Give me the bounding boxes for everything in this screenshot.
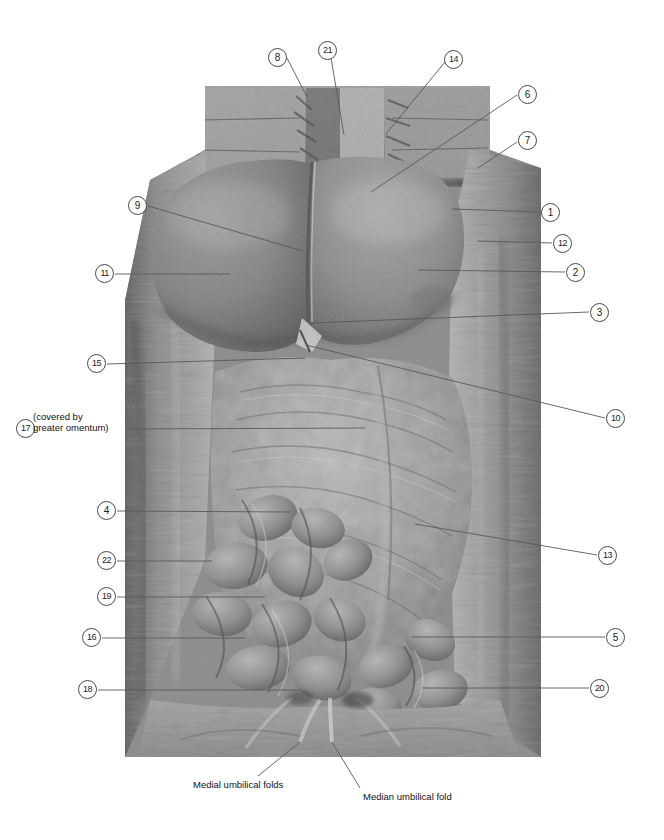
- callout-9[interactable]: 9: [128, 196, 147, 215]
- leader-line-15: [107, 358, 305, 364]
- caption-median-umbilical-fold: Median umbilical fold: [363, 791, 452, 802]
- leader-line-6: [371, 95, 517, 192]
- callout-1[interactable]: 1: [541, 203, 560, 222]
- leader-line-2: [418, 270, 565, 272]
- leader-line-14: [386, 62, 445, 134]
- callout-14[interactable]: 14: [444, 50, 463, 69]
- leader-line-10: [306, 345, 605, 418]
- callout-12[interactable]: 12: [553, 234, 572, 253]
- leader-line-4: [117, 511, 290, 512]
- callout-18[interactable]: 18: [78, 680, 97, 699]
- callout-11[interactable]: 11: [95, 264, 114, 283]
- leader-line-8: [287, 58, 307, 97]
- callout-20[interactable]: 20: [590, 679, 609, 698]
- leader-line-9: [148, 206, 303, 251]
- leader-line-7: [478, 142, 517, 168]
- leader-line-12: [478, 241, 552, 243]
- leader-line-3: [311, 312, 589, 323]
- callout-5[interactable]: 5: [606, 628, 625, 647]
- note-covered-by-greater-omentum: (covered by greater omentum): [33, 411, 109, 433]
- leader-line-13: [415, 524, 597, 555]
- callout-13[interactable]: 13: [598, 546, 617, 565]
- callout-21[interactable]: 21: [318, 41, 337, 60]
- callout-10[interactable]: 10: [606, 409, 625, 428]
- anatomy-plate: 82114671122310135209111517422191618 (cov…: [0, 0, 664, 840]
- callout-22[interactable]: 22: [97, 551, 116, 570]
- leader-line-17: [130, 428, 365, 429]
- callout-19[interactable]: 19: [97, 587, 116, 606]
- leader-line-21: [330, 52, 344, 135]
- callout-4[interactable]: 4: [97, 501, 116, 520]
- callout-3[interactable]: 3: [590, 303, 609, 322]
- callout-15[interactable]: 15: [87, 354, 106, 373]
- note-line-1: (covered by: [33, 411, 109, 422]
- callout-16[interactable]: 16: [82, 628, 101, 647]
- callout-8[interactable]: 8: [268, 48, 287, 67]
- leader-line-medial-caption: [258, 742, 300, 776]
- leader-line-1: [452, 209, 540, 212]
- leader-line-median-caption: [332, 742, 360, 788]
- caption-medial-umbilical-folds: Medial umbilical folds: [193, 779, 283, 790]
- callout-7[interactable]: 7: [518, 131, 537, 150]
- callout-6[interactable]: 6: [518, 85, 537, 104]
- note-line-2: greater omentum): [33, 422, 109, 433]
- callout-2[interactable]: 2: [566, 263, 585, 282]
